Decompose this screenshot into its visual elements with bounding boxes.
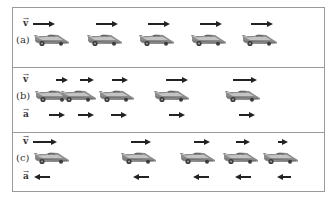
arrow-right-icon	[78, 112, 94, 118]
acceleration-vector-label: →a	[23, 110, 29, 119]
vector-arrow-accent-icon: →	[23, 15, 29, 24]
race-car-icon	[121, 151, 157, 165]
race-car-icon	[242, 33, 278, 47]
arrow-right-icon	[251, 21, 273, 27]
arrow-right-icon	[200, 21, 222, 27]
race-car-icon	[154, 89, 190, 103]
panel-label: (b)	[16, 90, 30, 101]
arrow-right-icon	[236, 139, 250, 145]
arrow-right-icon	[131, 139, 151, 145]
race-car-icon	[263, 151, 299, 165]
race-car-icon	[61, 89, 97, 103]
acceleration-vector-label: →a	[23, 172, 29, 181]
panel-a: (a)→v	[13, 8, 324, 67]
arrow-right-icon	[112, 77, 128, 83]
velocity-vector-label: →v	[23, 137, 28, 146]
arrow-right-icon	[96, 21, 118, 27]
panel-label: (c)	[16, 152, 29, 163]
arrow-right-icon	[194, 139, 210, 145]
arrow-right-icon	[80, 77, 94, 83]
arrow-left-icon	[277, 174, 291, 180]
arrow-right-icon	[148, 21, 170, 27]
velocity-vector-label: →v	[23, 75, 28, 84]
vector-arrow-accent-icon: →	[23, 133, 29, 142]
race-car-icon	[225, 89, 261, 103]
arrow-left-icon	[133, 174, 149, 180]
race-car-icon	[87, 33, 123, 47]
arrow-right-icon	[33, 21, 55, 27]
arrow-left-icon	[34, 174, 50, 180]
arrow-right-icon	[166, 77, 188, 83]
figure-frame: (a)→v(b)→v→a(c)→v→a	[12, 7, 325, 192]
arrow-right-icon	[49, 112, 65, 118]
vector-arrow-accent-icon: →	[23, 168, 29, 177]
panel-b: (b)→v→a	[13, 67, 324, 133]
arrow-left-icon	[235, 174, 251, 180]
arrow-right-icon	[239, 112, 255, 118]
velocity-vector-label: →v	[23, 19, 28, 28]
arrow-right-icon	[233, 77, 257, 83]
race-car-icon	[34, 33, 70, 47]
race-car-icon	[191, 33, 227, 47]
arrow-right-icon	[278, 139, 288, 145]
arrow-right-icon	[56, 77, 68, 83]
vector-arrow-accent-icon: →	[23, 106, 29, 115]
arrow-right-icon	[111, 112, 127, 118]
race-car-icon	[99, 89, 135, 103]
race-car-icon	[139, 33, 175, 47]
panel-label: (a)	[16, 34, 30, 45]
vector-arrow-accent-icon: →	[23, 71, 29, 80]
race-car-icon	[180, 151, 216, 165]
race-car-icon	[223, 151, 259, 165]
arrow-right-icon	[33, 139, 57, 145]
arrow-left-icon	[193, 174, 209, 180]
panel-c: (c)→v→a	[13, 132, 324, 194]
race-car-icon	[34, 151, 70, 165]
arrow-right-icon	[169, 112, 185, 118]
